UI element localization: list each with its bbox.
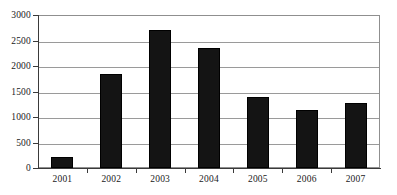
- x-axis-tick: [136, 169, 137, 173]
- x-axis-tick: [331, 169, 332, 173]
- x-axis-tick: [87, 169, 88, 173]
- x-axis-tick-label: 2007: [346, 174, 366, 184]
- x-axis-tick-label: 2001: [53, 174, 73, 184]
- x-axis-tick-label: 2005: [248, 174, 268, 184]
- x-axis-tick-label: 2004: [199, 174, 219, 184]
- bar: [247, 97, 269, 168]
- y-axis-tick-label: 1000: [11, 112, 31, 122]
- y-axis-tick-label: 500: [16, 138, 31, 148]
- y-axis-tick-label: 0: [26, 163, 31, 173]
- bar: [296, 110, 318, 168]
- bar: [149, 30, 171, 168]
- y-axis-tick-label: 3000: [11, 10, 31, 20]
- x-axis-tick-label: 2003: [150, 174, 170, 184]
- bar: [198, 48, 220, 168]
- y-axis-tick-label: 2500: [11, 36, 31, 46]
- x-axis-tick-label: 2006: [297, 174, 317, 184]
- x-axis-tick-label: 2002: [101, 174, 121, 184]
- bar: [51, 157, 73, 168]
- bar: [100, 74, 122, 168]
- x-axis-tick: [233, 169, 234, 173]
- x-axis-tick: [185, 169, 186, 173]
- bar-chart: 050010001500200025003000 200120022003200…: [0, 0, 397, 195]
- y-axis-labels: 050010001500200025003000: [0, 0, 31, 195]
- bar: [345, 103, 367, 168]
- y-axis-tick: [33, 168, 38, 169]
- x-axis-tick: [282, 169, 283, 173]
- y-axis-tick-label: 2000: [11, 61, 31, 71]
- bars: [38, 15, 380, 168]
- x-axis-line: [38, 168, 381, 169]
- y-axis-tick-label: 1500: [11, 87, 31, 97]
